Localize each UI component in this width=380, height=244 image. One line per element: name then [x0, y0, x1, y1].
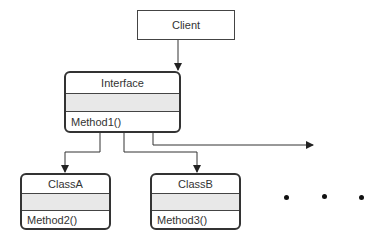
client-box: Client: [137, 10, 235, 40]
interface-attributes: [66, 94, 179, 112]
classa-name: ClassA: [22, 175, 109, 194]
classb-methods: Method3(): [152, 211, 239, 228]
classb-attributes: [152, 194, 239, 211]
interface-class-box: Interface Method1(): [64, 71, 181, 133]
interface-to-classb-arrow: [124, 133, 197, 172]
classb-box: ClassB Method3(): [150, 173, 241, 230]
interface-to-more-arrow: [153, 133, 313, 145]
interface-methods: Method1(): [66, 112, 179, 131]
interface-name: Interface: [66, 73, 179, 94]
interface-to-classa-arrow: [65, 133, 100, 172]
ellipsis-dot-3: [359, 195, 364, 200]
classa-methods: Method2(): [22, 211, 109, 228]
classa-attributes: [22, 194, 109, 211]
ellipsis-dot-2: [322, 194, 327, 199]
classb-name: ClassB: [152, 175, 239, 194]
ellipsis-dot-1: [284, 195, 289, 200]
classa-box: ClassA Method2(): [20, 173, 111, 230]
client-label: Client: [172, 19, 200, 31]
